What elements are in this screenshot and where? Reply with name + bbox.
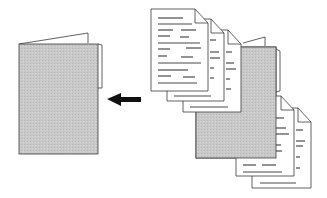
document-stack-front xyxy=(151,9,241,112)
illustration: Line-art illustration: a stack of text d… xyxy=(0,0,327,198)
document-icon xyxy=(151,9,208,91)
destination-folder-icon xyxy=(19,33,102,154)
arrow-left-icon xyxy=(107,93,141,106)
